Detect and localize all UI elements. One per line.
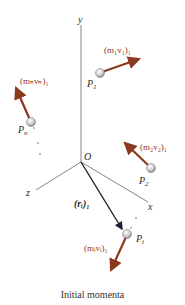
x-axis (81, 162, 148, 202)
position-vector-ri (81, 162, 122, 229)
momentum-arrow-p1 (102, 59, 139, 72)
particle-pn: Pn (mₙvₙ)₁ (16, 76, 49, 137)
x-axis-label: x (147, 201, 153, 212)
particle-label-p1: P1 (86, 78, 97, 91)
coordinate-axes: y z x O (25, 14, 153, 212)
momentum-arrow-pn (16, 88, 30, 120)
z-axis-label: z (25, 187, 30, 198)
z-axis (36, 162, 81, 190)
particle-pi: (rᵢ)₁ Pi (mᵢvᵢ)₁ (74, 162, 144, 270)
momentum-label-pi: (mᵢvᵢ)₁ (84, 243, 108, 253)
particle-ball-pi (123, 230, 132, 239)
momentum-label-p2: (m₂v₂)₁ (140, 142, 167, 152)
particle-p1: P1 (m₁v₁)₁ (86, 45, 139, 91)
momentum-label-pn: (mₙvₙ)₁ (20, 76, 49, 86)
particle-ball-p1 (96, 69, 105, 78)
momentum-arrow-pi (111, 237, 126, 270)
momentum-diagram: y z x O P1 (m₁v₁)₁ Pn (mₙvₙ)₁ P2 (m₂v₂)₁… (0, 0, 185, 305)
particle-ball-p2 (147, 164, 156, 173)
particle-ball-pn (27, 118, 36, 127)
y-axis-label: y (77, 14, 83, 25)
particle-label-p2: P2 (138, 175, 149, 188)
position-vector-label: (rᵢ)₁ (74, 198, 90, 210)
particle-label-pi: Pi (135, 233, 144, 246)
origin-label: O (84, 151, 91, 162)
figure-caption: Initial momenta (0, 289, 185, 300)
ellipsis-dots (33, 127, 136, 228)
momentum-label-p1: (m₁v₁)₁ (104, 45, 131, 55)
particle-label-pn: Pn (17, 124, 28, 137)
particle-p2: P2 (m₂v₂)₁ (125, 142, 167, 188)
